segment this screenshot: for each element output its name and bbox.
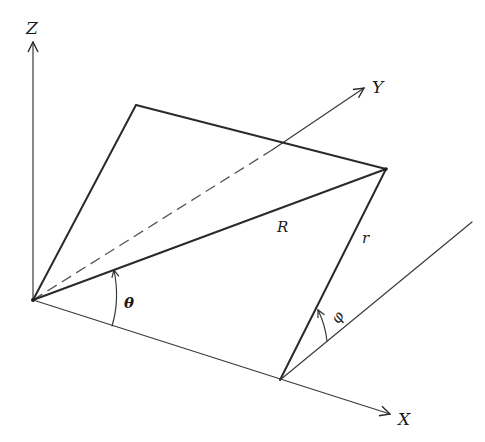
z-axis: Z: [25, 18, 39, 300]
label-theta: θ: [124, 294, 134, 312]
y-axis-label: Y: [372, 77, 385, 97]
label-R: R: [276, 218, 288, 236]
phi-reference-line: [280, 222, 472, 380]
theta-angle: θ: [112, 270, 134, 326]
origin-point: [31, 298, 35, 302]
z-axis-label: Z: [25, 18, 39, 38]
far-corner-point: [384, 167, 388, 171]
x-axis-label: X: [396, 409, 411, 429]
label-r: r: [362, 229, 370, 247]
coordinate-diagram: Z Y X R r θ φ: [0, 0, 485, 442]
plane-outline: [33, 105, 386, 380]
label-phi: φ: [327, 307, 348, 326]
